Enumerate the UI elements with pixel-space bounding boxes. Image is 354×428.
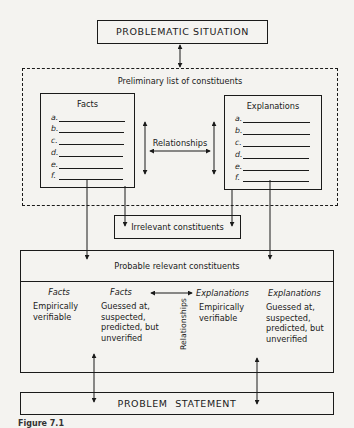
probable-relevant-divider <box>20 281 334 282</box>
facts-item: b. <box>51 124 58 133</box>
problematic-situation-box: PROBLEMATIC SITUATION <box>97 20 268 44</box>
facts-item: e. <box>51 160 58 169</box>
text-line: Empirically <box>33 301 78 312</box>
text-line: suspected, <box>101 312 159 323</box>
text-line: predicted, but <box>266 323 324 334</box>
column-heading-explanations-guessed: Explanations <box>268 288 321 298</box>
explanations-list-title: Explanations <box>225 101 321 111</box>
text-line: unverified <box>266 334 324 345</box>
column-heading-explanations-verifiable: Explanations <box>196 288 249 298</box>
facts-item: c. <box>51 136 58 145</box>
facts-item: a. <box>51 113 58 122</box>
problematic-situation-label: PROBLEMATIC SITUATION <box>98 21 267 43</box>
text-line: verifiable <box>33 312 78 323</box>
problem-statement-label: PROBLEM STATEMENT <box>21 393 333 414</box>
facts-item-line <box>59 156 123 157</box>
column-heading-facts-guessed: Facts <box>110 287 132 297</box>
column-text-facts-guessed: Guessed at, suspected, predicted, but un… <box>101 301 159 343</box>
facts-list-title: Facts <box>41 99 134 109</box>
text-line: Guessed at, <box>266 302 324 313</box>
irrelevant-constituents-box: Irrelevant constituents <box>114 215 241 239</box>
explanations-item-line <box>243 181 309 182</box>
text-line: verifiable <box>199 313 244 324</box>
text-line: Empirically <box>199 302 244 313</box>
column-text-facts-verifiable: Empirically verifiable <box>33 301 78 322</box>
text-line: Guessed at, <box>101 301 159 312</box>
explanations-item: b. <box>235 126 242 135</box>
text-line: predicted, but <box>101 322 159 333</box>
facts-item-line <box>59 121 125 122</box>
facts-item: f. <box>51 171 56 180</box>
text-line: unverified <box>101 333 159 344</box>
explanations-item: f. <box>235 173 240 182</box>
facts-item: d. <box>51 148 58 157</box>
explanations-item: d. <box>235 150 242 159</box>
preliminary-list-title: Preliminary list of constituents <box>22 76 338 86</box>
text-line: suspected, <box>266 313 324 324</box>
facts-item-line <box>59 144 124 145</box>
facts-item-line <box>59 132 124 133</box>
probable-relevant-title: Probable relevant constituents <box>20 261 334 271</box>
explanations-item: e. <box>235 162 242 171</box>
explanations-item-line <box>243 134 310 135</box>
explanations-item-line <box>243 146 310 147</box>
explanations-item-line <box>243 158 309 159</box>
problem-statement-box: PROBLEM STATEMENT <box>20 392 334 415</box>
explanations-item-line <box>243 170 309 171</box>
column-text-explanations-guessed: Guessed at, suspected, predicted, but un… <box>266 302 324 344</box>
explanations-item: c. <box>235 138 242 147</box>
explanations-item-line <box>243 122 310 123</box>
facts-item-line <box>59 168 123 169</box>
column-text-explanations-verifiable: Empirically verifiable <box>199 302 244 323</box>
irrelevant-constituents-label: Irrelevant constituents <box>115 216 240 238</box>
column-heading-facts-verifiable: Facts <box>34 287 84 297</box>
probable-relationships-label: Relationships <box>179 298 188 350</box>
facts-item-line <box>59 179 123 180</box>
explanations-item: a. <box>235 114 242 123</box>
preliminary-relationships-label: Relationships <box>148 138 212 148</box>
figure-caption: Figure 7.1 <box>18 419 64 428</box>
